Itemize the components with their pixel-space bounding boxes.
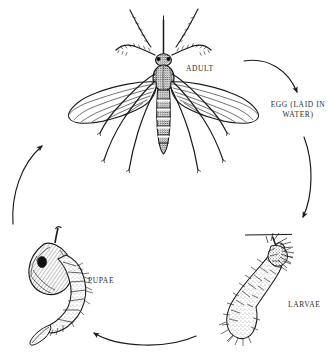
arrow-adult-to-egg bbox=[244, 60, 297, 92]
arrow-larvae-to-pupae bbox=[94, 333, 196, 345]
adult-mosquito-illustration bbox=[68, 9, 258, 173]
pupa-trumpet bbox=[55, 228, 58, 243]
arrow-egg-to-larvae bbox=[303, 137, 311, 217]
larva-illustration bbox=[219, 233, 294, 346]
stage-label-larvae: LARVAE bbox=[288, 300, 334, 310]
stage-label-adult: ADULT bbox=[186, 64, 232, 74]
pupa-illustration bbox=[29, 227, 93, 346]
mosquito-eye-right bbox=[166, 57, 170, 61]
mosquito-life-cycle-diagram: ADULT EGG (LAID IN WATER) LARVAE PUPAE bbox=[0, 0, 336, 353]
life-cycle-artwork bbox=[0, 0, 336, 353]
stage-label-pupae: PUPAE bbox=[88, 276, 128, 286]
arrow-pupae-to-adult bbox=[13, 146, 42, 224]
mosquito-eye-left bbox=[156, 57, 160, 61]
stage-label-egg: EGG (LAID IN WATER) bbox=[266, 100, 330, 120]
pupa-eye bbox=[37, 256, 46, 267]
mosquito-abdomen bbox=[157, 90, 171, 154]
water-surface-line bbox=[245, 234, 292, 235]
